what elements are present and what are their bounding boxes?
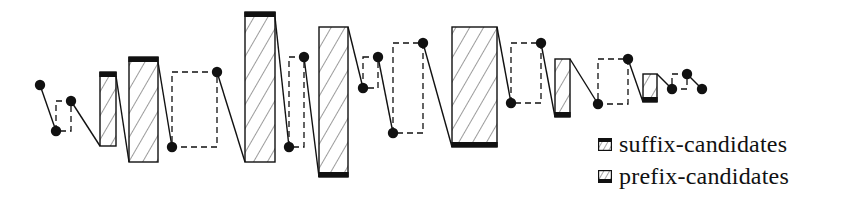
connector-line <box>628 59 643 102</box>
connector-line <box>348 27 363 88</box>
node-dot <box>373 52 383 62</box>
node-dot <box>212 67 222 77</box>
node-dot <box>506 98 516 108</box>
node-dot <box>66 96 76 106</box>
candidate-bar <box>99 72 116 77</box>
connector-line <box>497 27 511 103</box>
prefix-candidate <box>451 27 497 147</box>
node-dot <box>536 38 546 48</box>
connector-line <box>423 43 452 147</box>
connector-line <box>116 76 129 162</box>
connector-line <box>40 85 56 131</box>
node-dot <box>167 142 177 152</box>
candidate-bar <box>318 172 348 177</box>
dashed-box <box>511 43 541 103</box>
prefix-candidate <box>642 74 657 102</box>
prefix-candidate <box>318 27 348 177</box>
connector-line <box>541 43 555 117</box>
node-dot <box>697 84 707 94</box>
legend-item-suffix: suffix-candidates <box>598 128 789 160</box>
connector-line <box>275 17 289 147</box>
node-dot <box>418 38 428 48</box>
node-dot <box>299 52 309 62</box>
connector-line <box>570 59 598 104</box>
suffix-candidate <box>128 57 158 162</box>
connector-line <box>378 57 393 133</box>
connector-line <box>304 57 319 177</box>
legend-label-suffix: suffix-candidates <box>619 132 787 156</box>
node-dot <box>35 80 45 90</box>
hatched-boxes <box>99 12 657 177</box>
suffix-candidate <box>99 72 116 146</box>
node-dot <box>623 54 633 64</box>
node-dot <box>593 99 603 109</box>
connector-line <box>71 101 100 146</box>
node-dot <box>358 83 368 93</box>
legend: suffix-candidates prefix-candidates <box>598 128 789 192</box>
node-dot <box>667 84 677 94</box>
node-dot <box>388 128 398 138</box>
candidate-bar <box>554 112 570 117</box>
dashed-box <box>172 72 217 147</box>
suffix-candidate <box>244 12 275 162</box>
prefix-candidate <box>554 59 570 117</box>
candidate-bar <box>244 12 275 17</box>
candidate-bar <box>451 142 497 147</box>
hatched-box-bottom-bar-icon <box>598 170 612 183</box>
legend-item-prefix: prefix-candidates <box>598 160 789 192</box>
candidate-bar <box>642 97 657 102</box>
node-dot <box>51 126 61 136</box>
node-dot <box>682 69 692 79</box>
dashed-box <box>598 59 628 104</box>
candidate-bar <box>128 57 158 62</box>
connector-line <box>158 62 172 147</box>
legend-label-prefix: prefix-candidates <box>619 164 789 188</box>
node-dot <box>284 142 294 152</box>
dashed-box <box>289 57 304 147</box>
hatched-box-top-bar-icon <box>598 138 612 151</box>
connector-line <box>217 72 245 162</box>
dashed-box <box>393 43 423 133</box>
